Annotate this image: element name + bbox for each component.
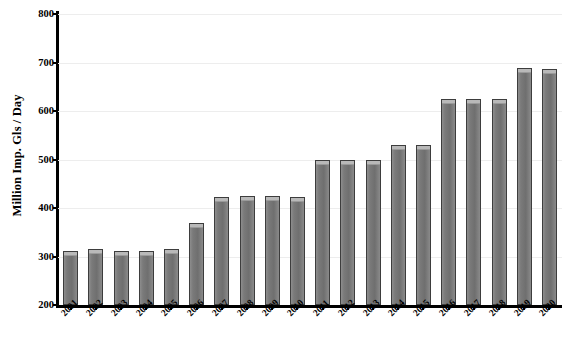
bar-highlight bbox=[543, 70, 556, 74]
gridline bbox=[58, 257, 562, 258]
bar-highlight bbox=[341, 161, 354, 165]
bar bbox=[63, 251, 78, 305]
bar-highlight bbox=[266, 197, 279, 201]
y-axis-tick-label: 600 bbox=[20, 106, 54, 117]
bar bbox=[542, 69, 557, 305]
bar-highlight bbox=[115, 252, 128, 256]
bar bbox=[189, 223, 204, 305]
y-axis-tick-labels: 200300400500600700800 bbox=[14, 14, 54, 305]
bar-highlight bbox=[518, 69, 531, 73]
y-axis-tick-label: 400 bbox=[20, 203, 54, 214]
bar bbox=[290, 197, 305, 305]
x-axis-tick-labels: 2001200220032004200520062007200820092010… bbox=[0, 305, 572, 345]
bar bbox=[240, 196, 255, 305]
y-axis-tick-mark bbox=[53, 13, 58, 15]
y-axis-tick-mark bbox=[53, 207, 58, 209]
gridline bbox=[58, 63, 562, 64]
y-axis-tick-label: 800 bbox=[20, 9, 54, 20]
bar-highlight bbox=[467, 100, 480, 104]
bar-highlight bbox=[215, 198, 228, 202]
y-axis-tick-mark bbox=[53, 159, 58, 161]
bar-highlight bbox=[64, 252, 77, 256]
bar bbox=[416, 145, 431, 305]
gridline bbox=[58, 111, 562, 112]
bar-highlight bbox=[140, 252, 153, 256]
bar bbox=[366, 160, 381, 306]
bar-highlight bbox=[442, 100, 455, 104]
plot-area bbox=[58, 14, 562, 305]
bar-highlight bbox=[89, 250, 102, 254]
y-axis-tick-mark bbox=[53, 256, 58, 258]
bar-chart: Million Imp. Gls / Day 20030040050060070… bbox=[0, 0, 572, 345]
gridline bbox=[58, 14, 562, 15]
bar bbox=[265, 196, 280, 305]
bar bbox=[340, 160, 355, 306]
bar bbox=[315, 160, 330, 306]
bar bbox=[441, 99, 456, 305]
bar bbox=[114, 251, 129, 305]
bar-highlight bbox=[241, 197, 254, 201]
bar bbox=[88, 249, 103, 305]
bar-highlight bbox=[291, 198, 304, 202]
bar-highlight bbox=[316, 161, 329, 165]
bar bbox=[466, 99, 481, 305]
bar bbox=[391, 145, 406, 305]
bar bbox=[214, 197, 229, 305]
y-axis-tick-mark bbox=[53, 110, 58, 112]
bar-highlight bbox=[190, 224, 203, 228]
gridline bbox=[58, 160, 562, 161]
y-axis-tick-mark bbox=[53, 62, 58, 64]
y-axis-tick-label: 300 bbox=[20, 252, 54, 263]
bar-highlight bbox=[493, 100, 506, 104]
bar bbox=[492, 99, 507, 305]
bar-highlight bbox=[392, 146, 405, 150]
bar-highlight bbox=[165, 250, 178, 254]
bar bbox=[517, 68, 532, 305]
y-axis-tick-label: 700 bbox=[20, 58, 54, 69]
gridline bbox=[58, 208, 562, 209]
bar-highlight bbox=[367, 161, 380, 165]
y-axis-tick-label: 500 bbox=[20, 155, 54, 166]
bar-highlight bbox=[417, 146, 430, 150]
